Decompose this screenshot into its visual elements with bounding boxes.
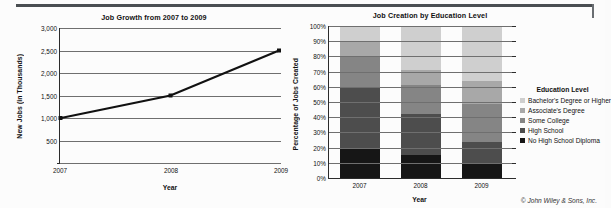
line-y-tick-label: 1,500 <box>41 92 57 99</box>
line-y-tick-label: 500 <box>46 137 57 144</box>
bar-gridline <box>329 72 512 73</box>
line-y-tick-label: 2,500 <box>41 47 57 54</box>
legend-swatch-icon <box>520 138 525 143</box>
legend-item-bachelors: Bachelor's Degree or Higher <box>520 97 605 104</box>
bar-y-tick-label: 90% <box>313 38 326 45</box>
bar-y-tick-label: 20% <box>313 144 326 151</box>
segment-no-diploma <box>401 155 441 178</box>
line-y-tick-label: 1,000 <box>41 115 57 122</box>
segment-some-college <box>401 85 441 114</box>
legend-label: High School <box>528 127 564 134</box>
line-x-tick-label: 2009 <box>274 167 288 174</box>
legend-label: No High School Diploma <box>528 137 600 144</box>
bar-right-tick <box>512 148 516 149</box>
bar-y-tick-label: 0% <box>317 175 326 182</box>
bar-gridline <box>329 148 512 149</box>
bar-gridline <box>329 163 512 164</box>
bar-gridline <box>329 87 512 88</box>
segment-bachelors <box>340 26 380 41</box>
stacked-bar-chart: Job Creation by Education Level Percenta… <box>292 8 605 208</box>
bar-right-tick <box>512 87 516 88</box>
bar-y-tick-label: 50% <box>313 99 326 106</box>
legend-label: Bachelor's Degree or Higher <box>528 97 611 104</box>
bar-y-tick-label: 60% <box>313 83 326 90</box>
bar-x-tick-label: 2009 <box>474 182 488 189</box>
legend-swatch-icon <box>520 108 525 113</box>
segment-associates <box>462 81 502 104</box>
segment-high-school <box>462 142 502 165</box>
bar-y-tick-label: 70% <box>313 68 326 75</box>
line-x-tick-label: 2008 <box>164 167 178 174</box>
bar-chart-y-axis-label: Percentage of Jobs Created <box>292 34 299 174</box>
top-divider-rule <box>16 4 594 7</box>
bar-x-tick-label: 2008 <box>413 182 427 189</box>
bar-gridline <box>329 117 512 118</box>
bar-chart-plot-area: 2007 2008 <box>328 26 512 179</box>
bar-gridline <box>329 132 512 133</box>
segment-high-school <box>401 114 441 155</box>
legend-label: Associate's Degree <box>528 107 585 114</box>
line-chart: Job Growth from 2007 to 2009 New Jobs (i… <box>4 8 292 208</box>
segment-some-college <box>462 104 502 142</box>
bar-y-tick-label: 80% <box>313 53 326 60</box>
legend-item-some-college: Some College <box>520 117 605 124</box>
bar-y-tick-label: 30% <box>313 129 326 136</box>
bar-y-tick-label: 40% <box>313 114 326 121</box>
bar-chart-title: Job Creation by Education Level <box>330 11 530 20</box>
line-y-tick-label: 3,000 <box>41 25 57 32</box>
line-series-path <box>60 28 281 163</box>
line-y-tick-mark <box>57 163 60 164</box>
legend-swatch-icon <box>520 118 525 123</box>
bar-right-tick <box>512 117 516 118</box>
segment-no-diploma <box>462 164 502 178</box>
legend-title: Education Level <box>520 86 605 93</box>
bar-chart-x-axis-label: Year <box>328 196 511 203</box>
bar-right-tick <box>512 56 516 57</box>
legend-item-associates: Associate's Degree <box>520 107 605 114</box>
bar-right-tick <box>512 132 516 133</box>
line-gridline <box>60 163 281 164</box>
bar-right-tick <box>512 26 516 27</box>
line-chart-title: Job Growth from 2007 to 2009 <box>34 13 274 22</box>
segment-bachelors <box>401 26 441 70</box>
bar-y-tick-label: 100% <box>310 23 326 30</box>
bar-y-tick-label: 10% <box>313 159 326 166</box>
legend: Education Level Bachelor's Degree or Hig… <box>520 86 605 147</box>
bar-right-tick <box>512 102 516 103</box>
bar-right-tick <box>512 163 516 164</box>
bar-gridline <box>329 26 512 27</box>
line-chart-y-axis-label: New Jobs (in Thousands) <box>16 44 23 148</box>
legend-swatch-icon <box>520 128 525 133</box>
copyright-attribution: © John Wiley & Sons, Inc. <box>521 197 597 204</box>
line-chart-plot-area: 3,000 2,500 2,000 1,500 1,000 500 2007 2… <box>59 28 281 163</box>
bar-right-tick <box>512 72 516 73</box>
bar-gridline <box>329 56 512 57</box>
figure-body: Job Growth from 2007 to 2009 New Jobs (i… <box>0 8 605 208</box>
bar-right-tick <box>512 178 516 179</box>
line-chart-x-axis-label: Year <box>59 184 281 191</box>
legend-item-high-school: High School <box>520 127 605 134</box>
bar-x-tick-label: 2007 <box>352 182 366 189</box>
line-x-tick-label: 2007 <box>53 167 67 174</box>
legend-swatch-icon <box>520 98 525 103</box>
legend-label: Some College <box>528 117 569 124</box>
bar-gridline <box>329 41 512 42</box>
legend-item-no-diploma: No High School Diploma <box>520 137 605 144</box>
segment-associates <box>340 41 380 56</box>
line-y-tick-label: 2,000 <box>41 70 57 77</box>
bar-gridline <box>329 102 512 103</box>
bar-right-tick <box>512 41 516 42</box>
